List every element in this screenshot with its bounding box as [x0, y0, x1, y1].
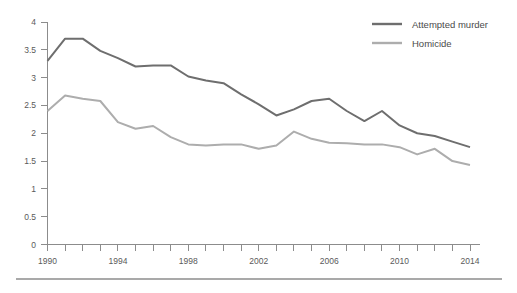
x-tick-label: 2010 [390, 256, 409, 266]
y-tick-label: 4 [31, 17, 36, 27]
line-chart: 00.511.522.533.54 1990199419982002200620… [0, 0, 517, 293]
x-tick-label: 1994 [108, 256, 127, 266]
y-axis: 00.511.522.533.54 [24, 17, 47, 250]
y-tick-label: 3 [31, 73, 36, 83]
legend-label-0: Attempted murder [412, 19, 488, 30]
y-axis-tick-labels: 00.511.522.533.54 [24, 17, 36, 250]
x-tick-label: 1998 [179, 256, 198, 266]
series-line-1 [48, 95, 471, 165]
y-tick-label: 0.5 [24, 212, 36, 222]
y-tick-label: 0 [31, 240, 36, 250]
x-axis: 1990199419982002200620102014 [38, 245, 480, 267]
series-line-0 [48, 39, 471, 147]
x-axis-ticks [48, 245, 471, 252]
x-tick-label: 2002 [249, 256, 268, 266]
chart-legend: Attempted murderHomicide [372, 19, 488, 49]
y-tick-label: 2 [31, 128, 36, 138]
x-axis-tick-labels: 1990199419982002200620102014 [38, 256, 480, 266]
x-tick-label: 1990 [38, 256, 57, 266]
y-tick-label: 2.5 [24, 100, 36, 110]
y-tick-label: 1.5 [24, 156, 36, 166]
chart-container: 00.511.522.533.54 1990199419982002200620… [0, 0, 517, 293]
y-axis-ticks [41, 22, 48, 245]
series-lines [48, 39, 471, 165]
x-tick-label: 2014 [461, 256, 480, 266]
y-tick-label: 3.5 [24, 45, 36, 55]
x-tick-label: 2006 [320, 256, 339, 266]
legend-label-1: Homicide [412, 38, 452, 49]
y-tick-label: 1 [31, 184, 36, 194]
